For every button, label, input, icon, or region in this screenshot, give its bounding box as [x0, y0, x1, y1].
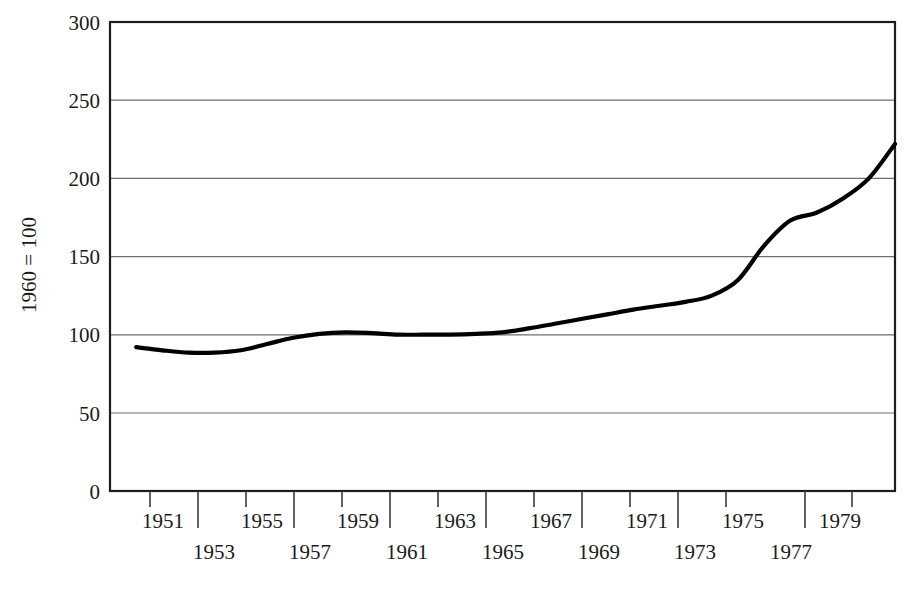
y-axis-title: 1960 = 100 [17, 217, 41, 313]
chart-figure: 300 250 200 150 100 50 0 1960 = 100 [0, 0, 907, 589]
x-tick-label-1975: 1975 [722, 509, 764, 533]
x-tick-label-1969: 1969 [578, 540, 620, 564]
x-tick-label-1973: 1973 [674, 540, 716, 564]
y-tick-label-50: 50 [79, 402, 100, 426]
y-tick-label-250: 250 [69, 89, 101, 113]
y-tick-label-0: 0 [90, 480, 101, 504]
data-series-line [136, 144, 895, 353]
x-tick-label-1977: 1977 [770, 540, 812, 564]
x-tick-label-1971: 1971 [626, 509, 668, 533]
y-tick-label-300: 300 [69, 11, 101, 35]
y-tick-label-200: 200 [69, 167, 101, 191]
line-chart: 300 250 200 150 100 50 0 1960 = 100 [0, 0, 907, 589]
y-axis-tick-labels: 300 250 200 150 100 50 0 [69, 11, 101, 504]
y-tick-label-150: 150 [69, 245, 101, 269]
x-tick-label-1951: 1951 [142, 509, 184, 533]
x-tick-label-1961: 1961 [386, 540, 428, 564]
x-tick-label-1959: 1959 [337, 509, 379, 533]
x-axis-tick-labels-upper: 1951 1955 1959 1963 1967 1971 1975 1979 [142, 509, 861, 533]
x-tick-label-1979: 1979 [819, 509, 861, 533]
x-tick-label-1957: 1957 [289, 540, 331, 564]
y-tick-label-100: 100 [69, 323, 101, 347]
x-tick-label-1967: 1967 [530, 509, 572, 533]
x-tick-label-1963: 1963 [434, 509, 476, 533]
gridlines [110, 100, 895, 413]
x-axis-tick-labels-lower: 1953 1957 1961 1965 1969 1973 1977 [193, 540, 812, 564]
x-tick-label-1955: 1955 [241, 509, 283, 533]
x-tick-label-1953: 1953 [193, 540, 235, 564]
x-tick-label-1965: 1965 [482, 540, 524, 564]
